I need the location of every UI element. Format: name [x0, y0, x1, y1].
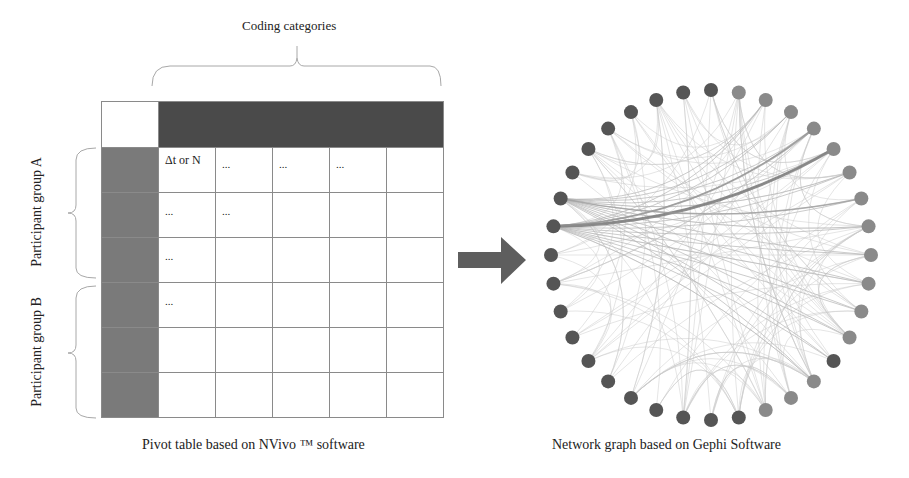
table-cell [330, 238, 387, 283]
header-row [102, 102, 444, 148]
row-header [102, 328, 159, 373]
network-edge [553, 284, 738, 418]
table-cell [216, 283, 273, 328]
table-cell [159, 328, 216, 373]
network-node [784, 391, 798, 405]
table-cell [387, 148, 444, 193]
row-header [102, 148, 159, 193]
table-cell [273, 238, 330, 283]
network-edge [572, 100, 657, 179]
network-node [649, 403, 663, 417]
table-cell [330, 373, 387, 418]
network-node [581, 142, 595, 156]
table-row: ... [102, 238, 444, 283]
table-cell [387, 328, 444, 373]
network-node [554, 304, 568, 318]
network-node [544, 248, 558, 262]
right-arrow-icon [458, 237, 526, 284]
table-cell: Δt or N [159, 148, 216, 193]
network-node [554, 192, 568, 206]
network-edge [608, 129, 683, 418]
brace-group-b [68, 286, 96, 418]
table-cell [216, 328, 273, 373]
network-node [732, 410, 746, 424]
network-node [565, 331, 579, 345]
table-row: Δt or N ... ... ... [102, 148, 444, 193]
brace-group-a [68, 148, 96, 278]
table-cell [330, 193, 387, 238]
table-cell [330, 328, 387, 373]
network-node [854, 192, 868, 206]
participant-group-b-label: Participant group B [29, 282, 45, 422]
network-graph-caption: Network graph based on Gephi Software [552, 437, 781, 453]
table-row: ... ... [102, 193, 444, 238]
network-node [581, 354, 595, 368]
network-node [649, 93, 663, 107]
table-cell: ... [273, 148, 330, 193]
table-row [102, 373, 444, 418]
row-header [102, 373, 159, 418]
table-cell: ... [159, 283, 216, 328]
network-node [546, 277, 560, 291]
network-node [601, 374, 615, 388]
table-cell: ... [330, 148, 387, 193]
network-graph [544, 83, 878, 427]
table-cell [273, 283, 330, 328]
row-header [102, 283, 159, 328]
table-cell [387, 283, 444, 328]
network-node [546, 219, 560, 233]
table-cell [273, 193, 330, 238]
network-node [827, 354, 841, 368]
table-cell: ... [216, 193, 273, 238]
corner-cell [102, 102, 159, 148]
table-cell: ... [216, 148, 273, 193]
network-node [676, 86, 690, 100]
network-node [565, 166, 579, 180]
pivot-table-caption: Pivot table based on NVivo ™ software [142, 437, 365, 453]
network-node [862, 277, 876, 291]
network-node [704, 83, 718, 97]
participant-group-a-label: Participant group A [29, 142, 45, 282]
network-node [827, 142, 841, 156]
row-header [102, 238, 159, 283]
network-node [624, 105, 638, 119]
network-edge [572, 129, 625, 338]
network-node [807, 122, 821, 136]
network-edge [711, 366, 791, 420]
network-edge [683, 365, 791, 417]
network-node [843, 166, 857, 180]
network-node [601, 122, 615, 136]
table-cell [273, 328, 330, 373]
table-cell [273, 373, 330, 418]
network-node [784, 105, 798, 119]
network-node [759, 403, 773, 417]
network-node [676, 410, 690, 424]
network-node [807, 374, 821, 388]
table-row [102, 328, 444, 373]
network-edge [588, 100, 658, 165]
network-edge [711, 366, 791, 420]
table-row: ... [102, 283, 444, 328]
table-cell [330, 283, 387, 328]
network-edge [683, 365, 791, 417]
table-cell [387, 373, 444, 418]
network-node [862, 219, 876, 233]
table-cell: ... [159, 238, 216, 283]
table-cell [387, 193, 444, 238]
network-node [704, 413, 718, 427]
row-header [102, 193, 159, 238]
table-cell [216, 238, 273, 283]
network-node [759, 93, 773, 107]
table-cell: ... [159, 193, 216, 238]
network-node [864, 248, 878, 262]
network-node [624, 391, 638, 405]
pivot-table: Δt or N ... ... ... ... ... ... ... [101, 101, 444, 418]
coding-categories-header [159, 102, 444, 148]
table-cell [216, 373, 273, 418]
top-brace [152, 46, 441, 86]
network-node [732, 86, 746, 100]
table-cell [159, 373, 216, 418]
network-node [843, 331, 857, 345]
table-cell [387, 238, 444, 283]
network-node [854, 304, 868, 318]
